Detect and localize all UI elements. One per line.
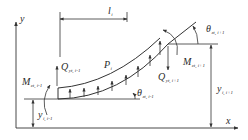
theta-left-arc [133,93,135,99]
beam-axis-curve [58,22,196,99]
shear-right-label: Qyt, i+1 [158,72,179,83]
x-axis-label: x [226,116,230,126]
load-label: Pi [104,60,112,71]
beam-element [58,22,196,99]
moment-right-label: Mzt, i+1 [183,57,205,68]
length-label: li [108,6,113,17]
moment-left-label: Mzt, i-1 [22,77,42,88]
theta-left-label: θzt, i-1 [137,88,154,99]
y-right-label: yi, i+1 [217,84,233,95]
theta-right-label: θzt, i+1 [206,24,225,35]
theta-right-arc [193,26,198,44]
y-left-label: yi, i-1 [38,110,52,121]
shear-left-label: Qyt, i-1 [61,62,80,73]
length-dimension [60,12,127,57]
y-axis-label: y [20,14,24,24]
